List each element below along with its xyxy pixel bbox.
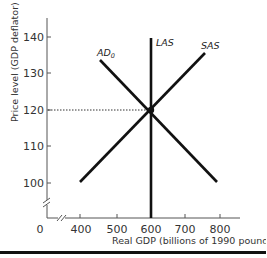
y-axis: 140 130 120 110 100 Price level (GDP def… bbox=[9, 2, 51, 218]
y-tick-120: 120 bbox=[23, 104, 44, 117]
x-tick-0: 0 bbox=[37, 223, 44, 236]
ad0-label: AD0 bbox=[96, 47, 115, 60]
sas-label: SAS bbox=[201, 40, 220, 51]
sas-curve bbox=[80, 53, 205, 182]
ad0-curve bbox=[100, 60, 217, 182]
chart: 140 130 120 110 100 Price level (GDP def… bbox=[0, 0, 266, 258]
y-tick-140: 140 bbox=[23, 31, 44, 44]
y-tick-100: 100 bbox=[23, 177, 44, 190]
y-axis-title: Price level (GDP deflator) bbox=[9, 2, 20, 122]
y-tick-110: 110 bbox=[23, 140, 44, 153]
x-axis: 0 400 500 600 700 800 Real GDP (billions… bbox=[37, 214, 267, 246]
x-axis-title: Real GDP (billions of 1990 pounds) bbox=[112, 235, 266, 246]
y-tick-130: 130 bbox=[23, 67, 44, 80]
bottom-border-rule bbox=[0, 251, 266, 254]
las-label: LAS bbox=[156, 37, 174, 48]
equilibrium-point bbox=[148, 107, 154, 113]
x-tick-400: 400 bbox=[71, 223, 92, 236]
